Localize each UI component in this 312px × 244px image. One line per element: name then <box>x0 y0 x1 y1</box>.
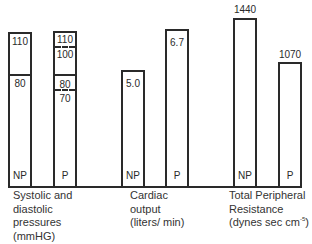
category-line: (mmHG) <box>13 230 72 244</box>
category-line: Total Peripheral <box>229 189 309 203</box>
bar-cardiac-p: 6.7 P <box>165 29 189 186</box>
value-label: 6.7 <box>167 37 187 48</box>
value-label-systolic-low: 100 <box>55 49 75 60</box>
category-line: Systolic and <box>13 189 72 203</box>
value-label-tpr-p: 1070 <box>275 49 305 60</box>
unit-text: (dynes sec cm <box>229 216 300 228</box>
unit-close: ) <box>305 216 309 228</box>
divider-line <box>10 74 30 76</box>
bar-tpr-p: P <box>278 62 302 186</box>
bar-label-p: P <box>55 170 75 181</box>
divider-line <box>55 74 75 76</box>
category-line: diastolic <box>13 203 72 217</box>
category-label-cardiac-output: Cardiac output (liters/ min) <box>130 189 184 230</box>
bar-label-np: NP <box>123 170 143 181</box>
category-line: Cardiac <box>130 189 184 203</box>
bar-label-p: P <box>167 170 187 181</box>
dashed-line <box>55 89 75 91</box>
bar-cardiac-np: 5.0 NP <box>121 70 145 186</box>
value-label-diastolic-low: 70 <box>55 93 75 104</box>
x-axis-line <box>8 186 302 188</box>
value-label-diastolic: 80 <box>10 78 30 89</box>
bar-bp-p: 110 100 80 70 P <box>53 31 77 186</box>
category-line: (liters/ min) <box>130 216 184 230</box>
bar-label-np: NP <box>10 170 30 181</box>
value-label-systolic-high: 110 <box>55 34 75 45</box>
category-line: (dynes sec cm-5) <box>229 216 309 230</box>
category-line: pressures <box>13 216 72 230</box>
category-line: output <box>130 203 184 217</box>
value-label: 5.0 <box>123 78 143 89</box>
category-label-tpr: Total Peripheral Resistance (dynes sec c… <box>229 189 309 230</box>
value-label-tpr-np: 1440 <box>230 4 260 15</box>
value-label-systolic: 110 <box>10 36 30 47</box>
category-label-blood-pressure: Systolic and diastolic pressures (mmHG) <box>13 189 72 243</box>
dashed-line <box>55 46 75 48</box>
bar-label-np: NP <box>235 170 255 181</box>
bar-label-p: P <box>280 170 300 181</box>
bar-tpr-np: NP <box>233 18 257 186</box>
bar-bp-np: 110 80 NP <box>8 32 32 186</box>
category-line: Resistance <box>229 203 309 217</box>
